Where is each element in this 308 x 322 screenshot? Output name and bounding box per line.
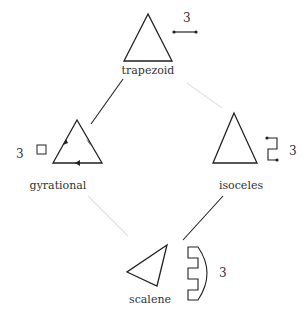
node-label: isoceles <box>219 179 263 192</box>
triangle-icon <box>124 14 172 61</box>
triangle-icon <box>213 113 257 163</box>
comb-arc-symbol-icon <box>188 247 207 300</box>
node-gyrational: 3 gyrational <box>16 120 102 192</box>
node-label: trapezoid <box>122 64 175 77</box>
symmetry-count: 3 <box>16 147 24 161</box>
arrow-base-icon <box>75 160 80 166</box>
zigzag-bracket-symbol-icon <box>265 136 278 161</box>
triangle-icon <box>127 245 167 286</box>
segment-symbol-icon <box>172 30 197 33</box>
node-label: scalene <box>129 293 171 306</box>
diagram-canvas: 3 trapezoid 3 gyrational 3 isoceles <box>0 0 308 322</box>
edge-trapezoid-gyrational <box>91 79 123 124</box>
edge-gyrational-scalene <box>88 196 128 236</box>
symmetry-count: 3 <box>183 11 191 25</box>
node-label: gyrational <box>30 179 87 192</box>
node-isoceles: 3 isoceles <box>213 113 297 192</box>
symmetry-count: 3 <box>219 266 227 280</box>
triangle-icon <box>53 120 102 163</box>
node-scalene: 3 scalene <box>127 245 227 306</box>
square-symbol-icon <box>37 145 46 154</box>
edge-trapezoid-isoceles <box>187 83 222 108</box>
node-trapezoid: 3 trapezoid <box>122 11 198 77</box>
edge-isoceles-scalene <box>183 196 223 240</box>
symmetry-count: 3 <box>289 144 297 158</box>
diagram-svg: 3 trapezoid 3 gyrational 3 isoceles <box>0 0 308 322</box>
